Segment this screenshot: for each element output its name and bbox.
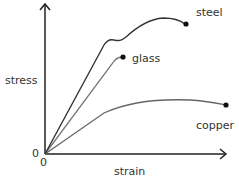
- glass-curve: [45, 57, 122, 154]
- x-axis-label: strain: [114, 165, 145, 178]
- glass-end-dot: [120, 54, 125, 59]
- copper-label: copper: [196, 119, 235, 132]
- copper-end-dot: [223, 102, 228, 107]
- stress-strain-chart: steel glass copper stress strain 0 0: [0, 0, 239, 179]
- glass-label: glass: [132, 52, 161, 65]
- steel-end-dot: [183, 21, 188, 26]
- y-axis-label: stress: [5, 74, 38, 87]
- origin-y-label: 0: [32, 147, 39, 160]
- steel-label: steel: [196, 6, 223, 19]
- steel-curve: [45, 18, 185, 154]
- origin-x-label: 0: [40, 156, 47, 169]
